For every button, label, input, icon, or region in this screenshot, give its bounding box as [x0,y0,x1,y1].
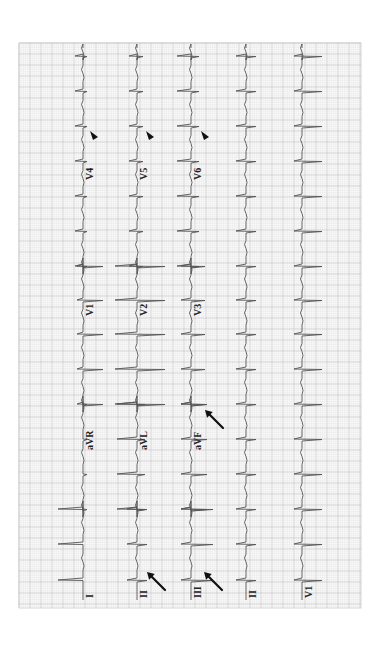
lead-label-v5: V5 [138,168,149,180]
lead-label-ii: II [138,590,149,598]
lead-label-i: I [84,594,95,598]
lead-label-avr: aVR [84,430,95,450]
lead-label-v1: V1 [303,586,314,598]
lead-label-v3: V3 [192,304,203,316]
lead-label-v6: V6 [192,168,203,180]
lead-label-avl: aVL [138,431,149,450]
ecg-figure: IaVRV1V4IIaVLV2V5IIIaVFV3V6IIV1 [0,0,383,650]
lead-label-v2: V2 [138,304,149,316]
lead-label-ii: II [247,590,258,598]
lead-label-avf: aVF [192,432,203,450]
lead-label-v4: V4 [84,168,95,180]
lead-label-iii: III [192,586,203,598]
lead-label-v1: V1 [84,304,95,316]
